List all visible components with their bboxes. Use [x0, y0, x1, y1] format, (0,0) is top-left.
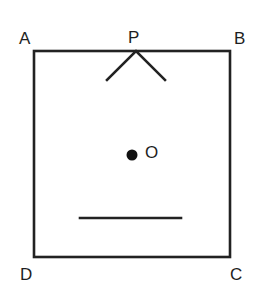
label-a: A	[19, 29, 31, 48]
v-mark-at-p	[107, 51, 165, 80]
point-o-dot	[127, 150, 138, 161]
label-o: O	[145, 143, 158, 162]
geometry-diagram: A P B O D C	[0, 0, 257, 299]
label-b: B	[234, 29, 245, 48]
label-d: D	[20, 265, 32, 284]
label-c: C	[230, 265, 242, 284]
label-p: P	[128, 28, 139, 47]
